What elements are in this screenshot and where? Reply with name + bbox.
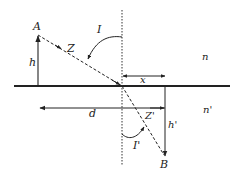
angle-i-prime-label: I' <box>132 139 140 152</box>
incident-ray-end-arrow-icon <box>112 80 120 85</box>
point-a-label: A <box>32 20 41 33</box>
angle-i-arc <box>88 37 122 59</box>
x-label: x <box>140 74 146 85</box>
refracted-ray-z-prime <box>122 86 164 155</box>
angle-i-label: I <box>96 23 102 36</box>
point-b-label: B <box>159 158 168 171</box>
z-prime-label: Z' <box>144 110 155 121</box>
d-label: d <box>89 107 96 120</box>
h-prime-label: h' <box>168 119 177 130</box>
n-prime-label: n' <box>203 104 212 115</box>
incident-ray-arrow-icon <box>55 45 61 49</box>
n-label: n <box>202 51 208 62</box>
z-label: Z <box>66 42 75 55</box>
angle-i-prime-arc <box>122 127 144 138</box>
h-label: h <box>29 56 36 69</box>
incident-ray-z <box>38 35 122 86</box>
refraction-diagram: A h Z I x n d Z' h' n' I' B <box>0 0 240 179</box>
